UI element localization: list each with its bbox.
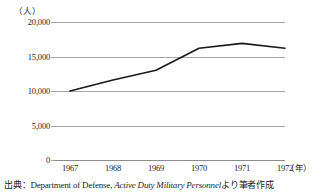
data-series-line — [55, 22, 285, 160]
x-tick-label: 1971 — [234, 163, 250, 173]
source-title: Active Duty Military Personnel — [114, 180, 221, 190]
x-axis-tick-labels: 1967 1968 1969 1970 1971 1972 — [55, 163, 285, 177]
gridline-0-baseline — [55, 160, 285, 161]
chart-figure: （人） 20,000 15,000 10,000 5,000 0 1967 19… — [0, 0, 327, 192]
y-tick-label: 0 — [4, 156, 50, 165]
y-tick-label: 10,000 — [4, 87, 50, 96]
source-prefix: 出典：Department of Defense, — [4, 180, 114, 190]
x-tick-label: 1968 — [105, 163, 121, 173]
x-tick-label: 1969 — [148, 163, 164, 173]
y-tick-label: 5,000 — [4, 122, 50, 131]
y-axis-unit-label: （人） — [14, 6, 40, 16]
x-tick-label: 1970 — [191, 163, 207, 173]
y-axis-tick-labels: 20,000 15,000 10,000 5,000 0 — [0, 22, 50, 160]
tick-mark — [51, 160, 55, 161]
x-axis-unit-label: （年） — [286, 163, 312, 173]
x-tick-label: 1967 — [62, 163, 78, 173]
source-caption: 出典：Department of Defense, Active Duty Mi… — [4, 180, 274, 191]
source-suffix: より筆者作成 — [221, 180, 274, 190]
y-tick-label: 20,000 — [4, 18, 50, 27]
plot-area — [55, 22, 285, 160]
y-tick-label: 15,000 — [4, 53, 50, 62]
